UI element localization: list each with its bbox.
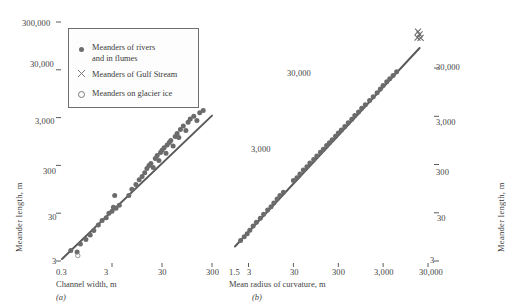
data-point-filled [148, 161, 153, 166]
panel-a-label: (a) [56, 293, 66, 302]
data-point-filled [339, 128, 344, 133]
panel-a-ytick-300: 300 [43, 167, 56, 176]
data-point-filled [359, 106, 364, 111]
panel-b-xtick-3: 3 [247, 268, 251, 277]
panel-a-yaxis-title: Meander length, m [14, 182, 24, 252]
data-point-filled [238, 238, 243, 243]
legend-cross-x-icon [76, 68, 87, 79]
data-point-filled [297, 172, 302, 177]
panel-a-xtick-3: 3 [104, 268, 108, 277]
data-point-filled [112, 193, 117, 198]
data-point-filled [96, 223, 101, 228]
panel-a-xtick-0-3: 0.3 [56, 268, 67, 277]
panel-a-xtick-30: 30 [158, 268, 167, 277]
data-point-filled [168, 138, 173, 143]
data-point-filled [307, 161, 312, 166]
data-point-filled [100, 218, 105, 223]
data-point-filled [371, 94, 376, 99]
panel-b-xtick-3000: 3,000 [374, 268, 394, 277]
panel-a-xtick-300: 300 [206, 268, 219, 277]
data-point-filled [129, 187, 134, 192]
data-point-filled [133, 182, 138, 187]
panel-a-ytick-3: 3 [52, 257, 56, 266]
data-point-filled [394, 69, 399, 74]
panel-b-ytick-3: 3 [430, 256, 434, 265]
data-point-filled [142, 170, 147, 175]
panel-a-xaxis-title: Channel width, m [56, 280, 117, 289]
data-point-filled [367, 98, 372, 103]
panel-b-yaxis-title: Meander length, m [496, 182, 506, 252]
panel-b-ytick-300: 300 [436, 168, 449, 177]
panel-b-inner-label-30000: 30,000 [287, 69, 311, 78]
panel-b-inner-label-3000: 3,000 [251, 145, 271, 154]
data-point-filled [156, 158, 161, 163]
data-point-filled [247, 228, 252, 233]
data-point-filled [151, 165, 156, 170]
data-point-filled [183, 128, 188, 133]
data-point-filled [83, 237, 88, 242]
data-point-filled [104, 215, 109, 220]
data-point-filled [314, 154, 319, 159]
data-point-filled [194, 118, 199, 123]
panel-b-label: (b) [252, 293, 262, 302]
data-point-filled [68, 248, 73, 253]
legend-label-rivers-line2: and in flumes [92, 54, 138, 63]
data-point-filled [258, 216, 263, 221]
panel-b-xtick-30: 30 [290, 268, 299, 277]
data-point-filled [181, 124, 186, 129]
panel-b-xaxis-title: Mean radius of curvature, m [229, 280, 326, 289]
data-point-filled [281, 190, 286, 195]
panel-a-ytick-3000: 3,000 [35, 117, 55, 126]
panel-b-ytick-3000: 3,000 [436, 118, 456, 127]
data-point-filled [391, 73, 396, 78]
legend-label-gulf-stream: Meanders of Gulf Stream [92, 70, 177, 79]
panel-a-ytick-300000: 300,000 [22, 19, 50, 28]
legend-open-circle-icon [78, 91, 85, 98]
panel-a-ytick-30: 30 [48, 213, 57, 222]
data-point-filled [375, 90, 380, 95]
data-point-filled [117, 203, 122, 208]
data-point-filled [164, 151, 169, 156]
legend-label-rivers-line1: Meanders of rivers [92, 43, 155, 52]
data-point-filled [201, 108, 206, 113]
data-point-filled [91, 228, 96, 233]
data-point-filled [342, 124, 347, 129]
data-point-filled [381, 83, 386, 88]
data-point-filled [88, 233, 93, 238]
panel-b-xtick-300: 300 [332, 268, 345, 277]
data-point-filled [176, 135, 181, 140]
data-point-filled [363, 102, 368, 107]
data-point-filled [271, 200, 276, 205]
data-point-filled [346, 120, 351, 125]
panel-b-xtick-30000: 30,000 [419, 268, 443, 277]
data-point-filled [191, 114, 196, 119]
data-point-filled [126, 193, 131, 198]
data-point-filled [78, 242, 83, 247]
data-point-filled [261, 212, 266, 217]
legend-label-glacier-ice: Meanders on glacier ice [92, 89, 172, 98]
legend-filled-circle-icon [79, 47, 84, 52]
data-point-filled [254, 220, 259, 225]
panel-b-ytick-30: 30 [437, 214, 446, 223]
panel-b-xtick-1-5: 1.5 [229, 268, 240, 277]
data-point-filled [171, 144, 176, 149]
figure-root: 300,000 30,000 3,000 300 30 3 0.3 3 30 3… [0, 0, 506, 307]
panel-b-ytick-30000: 30,000 [436, 63, 460, 72]
data-point-filled [352, 113, 357, 118]
panel-a-ytick-30000: 30,000 [30, 60, 54, 69]
legend-box: Meanders of rivers and in flumes Meander… [68, 28, 199, 108]
